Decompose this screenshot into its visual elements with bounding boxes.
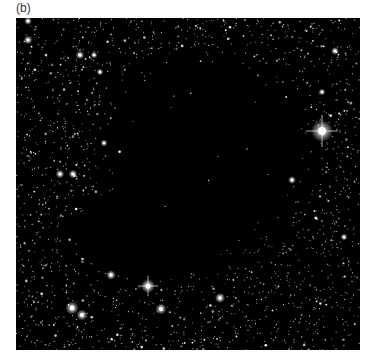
panel-label: (b) xyxy=(16,1,31,15)
star-field-canvas xyxy=(16,18,360,350)
star-field-image xyxy=(16,18,360,350)
